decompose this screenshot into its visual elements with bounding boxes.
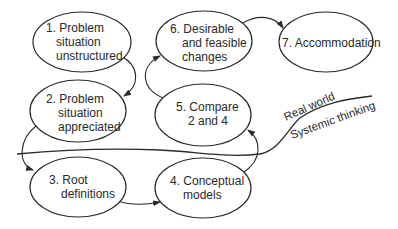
node-1-problem-unstructured: 1. Problem situation unstructured: [33, 12, 131, 72]
node-1-line-2: situation: [56, 35, 101, 49]
node-6-line-2: and feasible: [182, 36, 247, 50]
edge-5-to-6: [145, 56, 163, 98]
node-5-line-1: 5. Compare: [176, 100, 239, 114]
node-2-problem-appreciated: 2. Problem situation appreciated: [30, 80, 126, 142]
node-6-desirable-changes: 6. Desirable and feasible changes: [156, 11, 252, 71]
node-2-line-2: situation: [58, 106, 103, 120]
node-2-line-1: 2. Problem: [46, 92, 104, 106]
node-1-line-1: 1. Problem: [46, 21, 104, 35]
edge-2-to-3: [22, 126, 36, 170]
node-6-line-1: 6. Desirable: [170, 22, 234, 36]
edge-3-to-4: [118, 201, 160, 204]
ssm-diagram: 1. Problem situation unstructured 2. Pro…: [0, 0, 398, 229]
edge-4-to-5: [244, 130, 258, 172]
node-4-conceptual-models: 4. Conceptual models: [155, 158, 251, 218]
node-4-line-2: models: [183, 188, 222, 202]
edge-6-to-7: [243, 17, 283, 28]
node-4-line-1: 4. Conceptual: [170, 174, 244, 188]
node-2-line-3: appreciated: [58, 120, 121, 134]
edge-1-to-2: [121, 56, 136, 96]
node-5-compare: 5. Compare 2 and 4: [155, 84, 251, 146]
node-1-line-3: unstructured: [56, 49, 123, 63]
node-7-accommodation: 7. Accommodation: [279, 12, 381, 72]
node-6-line-3: changes: [182, 50, 227, 64]
node-5-line-2: 2 and 4: [188, 114, 228, 128]
node-3-line-2: definitions: [61, 187, 115, 201]
node-3-root-definitions: 3. Root definitions: [30, 157, 126, 217]
node-7-line-1: 7. Accommodation: [282, 36, 381, 50]
node-3-line-1: 3. Root: [49, 173, 88, 187]
